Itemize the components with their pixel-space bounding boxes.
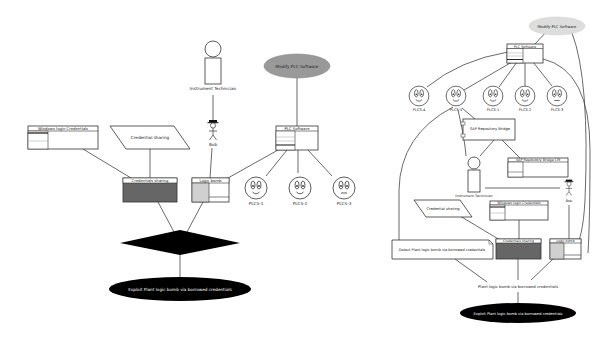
and-gate-diamond[interactable]: [120, 230, 240, 255]
plcs-4-node[interactable]: PLCS-4: [409, 86, 429, 112]
bob-node[interactable]: Bob: [208, 120, 219, 147]
credentials-sharing-vuln-node[interactable]: Credentials sharing: [123, 178, 177, 202]
logic-bomb-node[interactable]: Logic bomb: [550, 239, 581, 259]
component-port-icon: [461, 122, 465, 125]
component-port-icon: [461, 134, 465, 137]
left-goal-node[interactable]: Exploit Plant logic bomb via borrowed cr…: [109, 277, 251, 301]
bob-label: Bob: [209, 142, 217, 147]
windows-login-credentials-label: Windows login Credentials: [497, 201, 541, 205]
bob-attacker-icon: [565, 180, 574, 196]
plc-device-icon: [483, 86, 503, 106]
edge-plcs5-to-sap: [462, 108, 475, 119]
detect-note-label: Detect Plant logic bomb via borrowed cre…: [399, 248, 486, 252]
sap-repository-bridge-cm-node[interactable]: SAP Repository Bridge CM: [508, 158, 568, 177]
instrument-technician-label: Instrument Technician: [455, 194, 492, 198]
edge-sap-to-sapcm: [502, 140, 520, 158]
plcs-1-node[interactable]: PLCS-1: [483, 86, 503, 112]
plc-device-icon: [333, 177, 355, 199]
right-goal-node[interactable]: Exploit Plant logic bomb via borrowed cr…: [460, 303, 576, 323]
windows-login-credentials-label: Windows login Credentials: [38, 126, 88, 131]
edge-bob-to-logicbomb: [210, 148, 212, 178]
credential-sharing-action-node[interactable]: Credential sharing: [110, 126, 190, 149]
modify-plc-software-node[interactable]: Modify PLC Software: [264, 54, 330, 78]
plc-device-icon: [289, 177, 311, 199]
credential-sharing-action-label: Credential sharing: [131, 135, 170, 140]
plcs-3-label: PLCS-3: [551, 108, 564, 112]
edge-logicbomb-to-gate: [187, 202, 203, 232]
edge-plc-to-plcs1: [266, 150, 287, 176]
plc-device-icon: [515, 86, 535, 106]
edge-plc-to-plcs3: [308, 150, 332, 176]
intermediate-goal-label[interactable]: Plant logic bomb via borrowed credential…: [478, 284, 558, 289]
plcs-3-node[interactable]: PLCS-3: [547, 86, 567, 112]
plc-software-node[interactable]: PLC Software: [276, 126, 318, 150]
edge-sap-to-technician: [480, 140, 494, 156]
plc-software-label: PLC Software: [514, 45, 536, 49]
modify-plc-software-label: Modify PLC Software: [538, 24, 577, 29]
bob-label: Bob: [566, 199, 573, 203]
edge-credsharing-to-gate: [158, 202, 174, 232]
plcs-5-label: PLCS-5: [450, 108, 463, 112]
plc-software-node[interactable]: PLC Software: [507, 44, 543, 63]
edge-plc-to-plcs4: [427, 52, 508, 87]
modify-plc-software-node[interactable]: Modify PLC Software: [529, 17, 585, 35]
left-goal-label: Exploit Plant logic bomb via borrowed cr…: [128, 287, 232, 292]
person-head-icon: [205, 41, 221, 57]
person-body-icon: [468, 170, 480, 192]
plcs-1-label: PLCS-1: [249, 201, 264, 206]
plcs-3-node[interactable]: PLCS-3: [333, 177, 355, 206]
plcs-3-label: PLCS-3: [337, 201, 352, 206]
bob-node[interactable]: Bob: [565, 180, 574, 203]
sap-repository-bridge-cm-label: SAP Repository Bridge CM: [516, 158, 560, 162]
instrument-technician-node[interactable]: Instrument Technician: [190, 41, 237, 91]
logic-bomb-label: Logic bomb: [556, 239, 574, 243]
logic-bomb-label: Logic bomb: [200, 178, 223, 183]
left-attack-tree: Modify PLC Software Instrument Technicia…: [28, 41, 355, 301]
plcs-2-node[interactable]: PLCS-2: [515, 86, 535, 112]
detect-note-node[interactable]: Detect Plant logic bomb via borrowed cre…: [392, 240, 493, 259]
sap-repository-bridge-node[interactable]: SAP Repository Bridge: [461, 119, 515, 140]
edge-logicbomb-to-intermediate: [531, 259, 553, 280]
plc-device-icon: [446, 86, 466, 106]
plc-software-label: PLC Software: [284, 126, 310, 131]
plcs-2-label: PLCS-2: [293, 201, 308, 206]
credentials-sharing-vuln-label: Credentials sharing: [503, 239, 534, 243]
person-head-icon: [468, 157, 480, 169]
person-body-icon: [205, 58, 221, 84]
credentials-sharing-vuln-label: Credentials sharing: [132, 178, 169, 183]
logic-bomb-node[interactable]: Logic bomb: [192, 178, 229, 202]
windows-login-credentials-node[interactable]: Windows login Credentials: [28, 126, 98, 149]
edge-detect-to-intermediate: [455, 259, 487, 282]
credentials-sharing-vuln-node[interactable]: Credentials sharing: [496, 239, 541, 259]
right-goal-label: Exploit Plant logic bomb via borrowed cr…: [474, 312, 563, 316]
plcs-1-node[interactable]: PLCS-1: [245, 177, 267, 206]
bob-attacker-icon: [208, 120, 219, 140]
credential-sharing-action-node[interactable]: Credential sharing: [414, 200, 472, 217]
right-attack-tree: Modify PLC Software PLC Software PLCS-4 …: [392, 17, 590, 323]
sap-repository-bridge-label: SAP Repository Bridge: [470, 127, 511, 131]
credential-sharing-action-label: Credential sharing: [426, 207, 459, 211]
plc-device-icon: [409, 86, 429, 106]
plc-device-icon: [547, 86, 567, 106]
modify-plc-software-label: Modify PLC Software: [276, 64, 319, 69]
edge-plcs5-to-detect: [399, 107, 453, 240]
plcs-2-node[interactable]: PLCS-2: [289, 177, 311, 206]
plcs-4-label: PLCS-4: [413, 108, 426, 112]
edge-plc-to-logicbomb: [228, 150, 278, 178]
edge-windows-to-credsharing: [83, 149, 131, 178]
instrument-technician-label: Instrument Technician: [190, 86, 237, 91]
windows-login-credentials-node[interactable]: Windows login Credentials: [490, 201, 548, 220]
edge-modify-to-logicbomb: [572, 33, 586, 253]
diagram-canvas: Modify PLC Software Instrument Technicia…: [0, 0, 616, 337]
edge-plc-to-plcs5: [464, 62, 512, 90]
instrument-technician-node[interactable]: Instrument Technician: [455, 157, 492, 198]
plcs-5-node[interactable]: PLCS-5: [446, 86, 466, 112]
plcs-2-label: PLCS-2: [519, 108, 532, 112]
edge-plc-to-plcs1: [499, 62, 517, 87]
edge-plc-to-plcs3: [533, 62, 552, 86]
plcs-1-label: PLCS-1: [487, 108, 500, 112]
plc-device-icon: [245, 177, 267, 199]
